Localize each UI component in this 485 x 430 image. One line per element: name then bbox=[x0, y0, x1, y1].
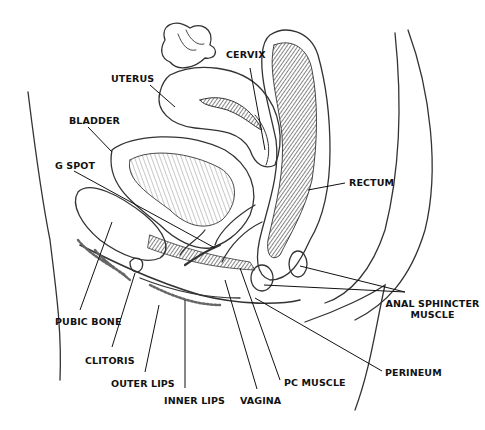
label-pc-muscle: PC MUSCLE bbox=[284, 377, 346, 388]
clitoris-shape bbox=[130, 258, 143, 272]
uterus-outline bbox=[159, 67, 280, 166]
leader-anal-sphincter-a bbox=[300, 266, 405, 292]
label-rectum: RECTUM bbox=[349, 177, 394, 188]
label-cervix: CERVIX bbox=[226, 49, 266, 60]
leader-vagina bbox=[225, 280, 257, 389]
ovary bbox=[162, 23, 216, 67]
label-bladder: BLADDER bbox=[69, 115, 120, 126]
anal-sphincter-1 bbox=[251, 265, 273, 291]
leader-pubic-bone bbox=[80, 222, 112, 310]
rectum-interior bbox=[268, 43, 317, 258]
label-anal-sphincter-line1: ANAL SPHINCTER bbox=[380, 298, 485, 309]
buttock-curve bbox=[305, 285, 385, 410]
anatomy-illustration bbox=[0, 0, 485, 430]
label-uterus: UTERUS bbox=[111, 73, 154, 84]
label-outer-lips: OUTER LIPS bbox=[111, 378, 175, 389]
back-outline-inner bbox=[325, 33, 399, 303]
label-inner-lips: INNER LIPS bbox=[164, 395, 225, 406]
leader-clitoris bbox=[112, 273, 135, 347]
leader-uterus bbox=[150, 85, 175, 107]
abdomen-outline bbox=[28, 92, 60, 380]
label-clitoris: CLITORIS bbox=[85, 355, 135, 366]
label-pubic-bone: PUBIC BONE bbox=[55, 316, 122, 327]
leader-rectum bbox=[308, 183, 345, 190]
label-vagina: VAGINA bbox=[240, 395, 281, 406]
label-anal-sphincter-line2: MUSCLE bbox=[380, 309, 485, 320]
back-outline-outer bbox=[355, 30, 432, 320]
leader-bladder bbox=[88, 127, 112, 152]
label-anal-sphincter: ANAL SPHINCTER MUSCLE bbox=[380, 298, 485, 320]
anatomy-diagram: CERVIX UTERUS BLADDER RECTUM G SPOT ANAL… bbox=[0, 0, 485, 430]
leader-outer-lips bbox=[145, 305, 159, 372]
leader-perineum bbox=[255, 298, 382, 371]
label-g-spot: G SPOT bbox=[55, 160, 95, 171]
label-perineum: PERINEUM bbox=[385, 367, 442, 378]
anal-sphincter-2 bbox=[289, 251, 307, 277]
leader-pc-muscle bbox=[240, 268, 280, 380]
uterine-cavity bbox=[200, 98, 262, 130]
